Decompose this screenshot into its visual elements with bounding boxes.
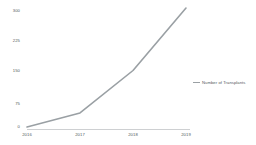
- x-axis-tick-2018: 2018: [120, 132, 146, 137]
- series-line-number-of-transplants: [27, 8, 186, 127]
- y-axis-tick-225: 225: [2, 38, 20, 43]
- x-axis-tick-2019: 2019: [173, 132, 199, 137]
- y-axis-tick-75: 75: [2, 101, 20, 106]
- chart-legend: Number of Transplants: [193, 80, 245, 85]
- legend-line-swatch-icon: [193, 82, 200, 83]
- y-axis-tick-300: 300: [2, 8, 20, 13]
- chart-plot-area: [0, 0, 256, 145]
- x-axis-tick-2016: 2016: [14, 132, 40, 137]
- y-axis-tick-150: 150: [2, 68, 20, 73]
- legend-label-number-of-transplants: Number of Transplants: [202, 80, 245, 85]
- y-axis-tick-0: 0: [2, 124, 20, 129]
- x-axis-tick-2017: 2017: [67, 132, 93, 137]
- line-chart: 300 225 150 75 0 2016 2017 2018 2019 Num…: [0, 0, 256, 145]
